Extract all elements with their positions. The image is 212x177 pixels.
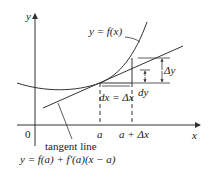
delta-y-label: Δy	[163, 64, 175, 76]
tick-a-plus-dx: a + Δx	[119, 128, 149, 140]
y-axis-label: y	[25, 10, 31, 22]
x-axis-label: x	[191, 129, 197, 141]
curve-f	[17, 22, 147, 90]
differential-diagram: y x 0 y = f(x) a a + Δx dx = Δx dy Δy ta…	[0, 0, 212, 177]
tangent-equation: y = f(a) + f′(a)(x − a)	[19, 153, 116, 166]
dy-label: dy	[138, 86, 149, 98]
origin-label: 0	[25, 128, 31, 140]
tick-a: a	[97, 128, 103, 140]
dx-label: dx = Δx	[99, 91, 134, 103]
curve-label: y = f(x)	[88, 25, 122, 38]
tangent-leader	[58, 103, 72, 139]
curve-leader	[125, 37, 140, 42]
tangent-label: tangent line	[45, 140, 97, 152]
